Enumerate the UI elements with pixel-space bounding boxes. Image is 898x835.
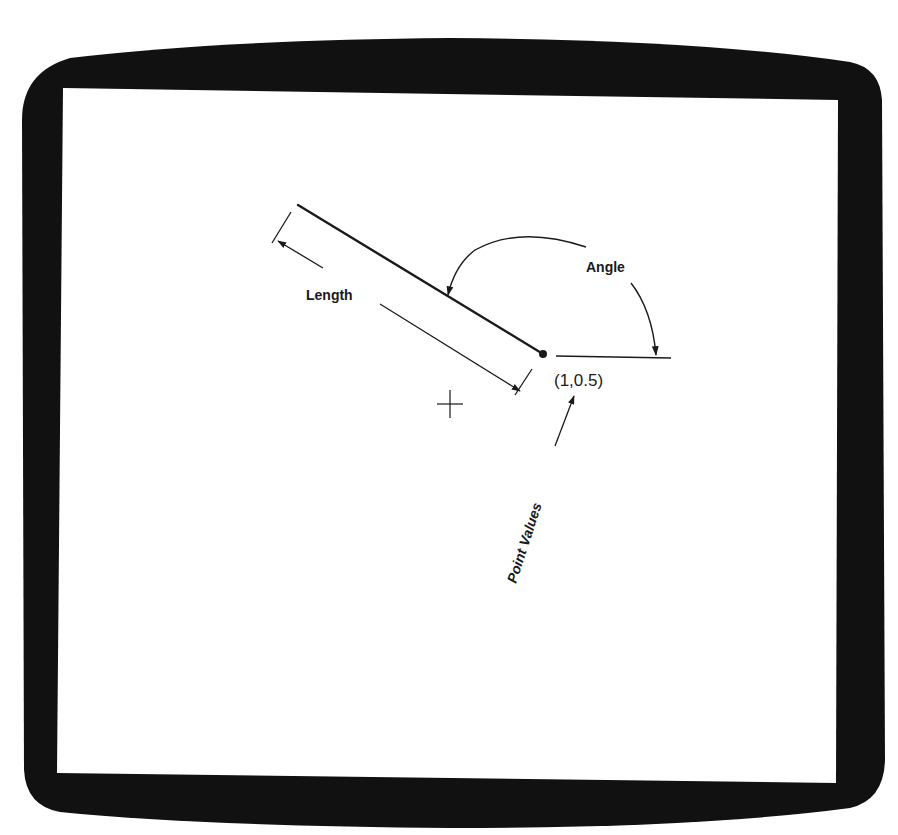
display-screen: Length Angle (1,0.5) Point Values: [0, 0, 898, 835]
monitor-bezel: [22, 38, 885, 828]
coordinate-label: (1,0.5): [554, 371, 603, 390]
angle-label: Angle: [586, 259, 625, 275]
length-label: Length: [306, 287, 353, 303]
screen-area: [57, 88, 838, 783]
endpoint-dot: [539, 350, 547, 358]
